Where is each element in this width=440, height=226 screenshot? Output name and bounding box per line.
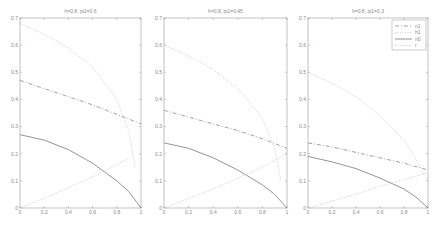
chart-panel-2: h=0.8, pi1=0.4500.20.40.60.8100.10.20.30… bbox=[155, 8, 289, 215]
x-tick-label: 1 bbox=[427, 209, 430, 215]
plot-frame bbox=[20, 18, 141, 208]
y-tick-label: 0.5 bbox=[11, 69, 18, 75]
x-tick-label: 1 bbox=[286, 209, 289, 215]
y-tick-label: 0.7 bbox=[155, 15, 162, 21]
x-tick-label: 0.6 bbox=[89, 209, 96, 215]
x-tick-label: 0 bbox=[19, 209, 22, 215]
x-tick-label: 1 bbox=[140, 209, 143, 215]
y-tick-label: 0 bbox=[303, 205, 306, 211]
y-tick-label: 0.1 bbox=[299, 178, 306, 184]
plot-frame bbox=[164, 18, 287, 208]
y-tick-label: 0.6 bbox=[11, 42, 18, 48]
y-tick-label: 0 bbox=[15, 205, 18, 211]
y-tick-label: 0 bbox=[159, 205, 162, 211]
y-tick-label: 0.2 bbox=[299, 151, 306, 157]
figure: h=0.8, pi1=0.600.20.40.60.8100.10.20.30.… bbox=[0, 0, 440, 226]
chart-panel-1: h=0.8, pi1=0.600.20.40.60.8100.10.20.30.… bbox=[11, 8, 143, 215]
chart-title: h=0.8, pi1=0.3 bbox=[352, 8, 384, 14]
legend: n1h1n0r bbox=[392, 20, 426, 50]
y-tick-label: 0.5 bbox=[299, 69, 306, 75]
y-tick-label: 0.3 bbox=[155, 123, 162, 129]
y-tick-label: 0.7 bbox=[11, 15, 18, 21]
chart-panel-3: h=0.8, pi1=0.300.20.40.60.8100.10.20.30.… bbox=[299, 8, 430, 215]
x-tick-label: 0.8 bbox=[401, 209, 408, 215]
x-tick-label: 0.4 bbox=[210, 209, 217, 215]
x-tick-label: 0.6 bbox=[377, 209, 384, 215]
y-tick-label: 0.7 bbox=[299, 15, 306, 21]
x-tick-label: 0.2 bbox=[41, 209, 48, 215]
y-tick-label: 0.6 bbox=[299, 42, 306, 48]
legend-label-n1: n1 bbox=[415, 23, 421, 29]
x-tick-label: 0.6 bbox=[234, 209, 241, 215]
y-tick-label: 0.4 bbox=[299, 96, 306, 102]
x-tick-label: 0.2 bbox=[329, 209, 336, 215]
y-tick-label: 0.2 bbox=[155, 151, 162, 157]
x-tick-label: 0 bbox=[163, 209, 166, 215]
x-tick-label: 0.4 bbox=[353, 209, 360, 215]
y-tick-label: 0.3 bbox=[299, 123, 306, 129]
x-tick-label: 0 bbox=[307, 209, 310, 215]
y-tick-label: 0.3 bbox=[11, 123, 18, 129]
y-tick-label: 0.6 bbox=[155, 42, 162, 48]
y-tick-label: 0.4 bbox=[155, 96, 162, 102]
x-tick-label: 0.8 bbox=[259, 209, 266, 215]
legend-label-h1: h1 bbox=[415, 29, 421, 35]
chart-title: h=0.8, pi1=0.6 bbox=[65, 8, 97, 14]
x-tick-label: 0.8 bbox=[113, 209, 120, 215]
y-tick-label: 0.1 bbox=[155, 178, 162, 184]
y-tick-label: 0.4 bbox=[11, 96, 18, 102]
legend-label-n0: n0 bbox=[415, 36, 421, 42]
x-tick-label: 0.2 bbox=[185, 209, 192, 215]
y-tick-label: 0.5 bbox=[155, 69, 162, 75]
y-tick-label: 0.2 bbox=[11, 151, 18, 157]
y-tick-label: 0.1 bbox=[11, 178, 18, 184]
chart-title: h=0.8, pi1=0.45 bbox=[208, 8, 243, 14]
x-tick-label: 0.4 bbox=[65, 209, 72, 215]
